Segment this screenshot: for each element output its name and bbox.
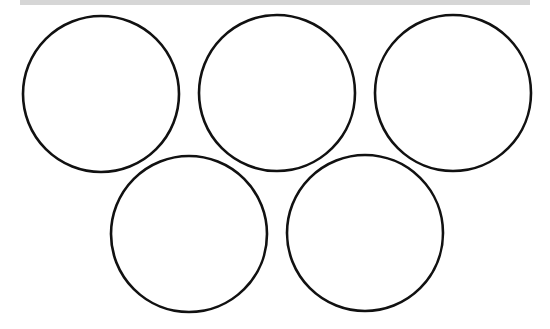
- rings-group: [23, 15, 531, 312]
- ring-top-left-circle: [23, 16, 179, 172]
- ring-top-middle-circle: [199, 15, 355, 171]
- rings-drawing: [0, 0, 550, 329]
- ring-bottom-right-circle: [287, 155, 443, 311]
- ring-top-right-circle: [375, 15, 531, 171]
- ring-bottom-left-circle: [111, 156, 267, 312]
